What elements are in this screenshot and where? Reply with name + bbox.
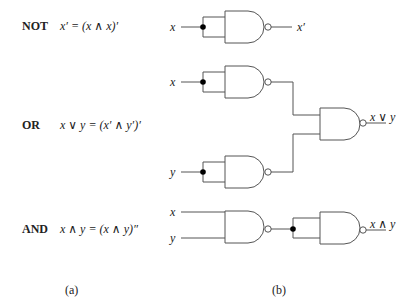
or-output-label: x ∨ y (370, 111, 395, 123)
and-output-label: x ∧ y (370, 218, 395, 230)
junction-dot (200, 24, 206, 30)
and-input-x-label: x (170, 206, 175, 218)
or-input-x-label: x (170, 76, 175, 88)
caption-a: (a) (65, 283, 78, 298)
or-circuit (181, 66, 386, 188)
inversion-bubble (265, 24, 271, 30)
not-output-label: x′ (297, 21, 305, 33)
nand-gate (225, 11, 264, 43)
caption-b: (b) (272, 283, 286, 298)
not-input-label: x (170, 21, 175, 33)
and-input-y-label: y (170, 232, 175, 244)
and-circuit (181, 211, 386, 244)
not-circuit (181, 11, 292, 43)
or-input-y-label: y (170, 166, 175, 178)
nand-circuits-diagram (0, 0, 409, 302)
